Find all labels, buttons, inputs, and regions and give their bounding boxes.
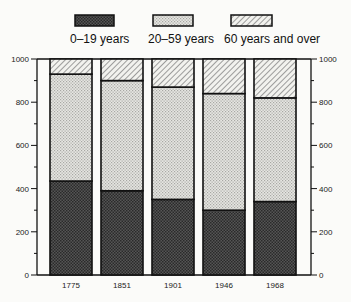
right-tick-label: 200 [319,228,333,237]
left-tick-label: 200 [16,228,30,237]
bar-segment-1 [152,87,194,199]
legend-label-20-59: 20–59 years [148,32,214,46]
bar-1775: 1775 [50,59,92,290]
bar-segment-2 [50,59,92,74]
bar-segment-0 [203,210,245,275]
bar-segment-0 [254,202,296,275]
x-tick-label: 1968 [266,281,284,290]
bar-1968: 1968 [254,59,296,290]
left-tick-label: 800 [16,98,30,107]
bar-segment-0 [101,191,143,275]
bar-1851: 1851 [101,59,143,290]
bar-segment-0 [152,199,194,275]
right-tick-label: 600 [319,141,333,150]
bar-segment-2 [152,59,194,87]
bar-segment-0 [50,181,92,275]
bar-segment-1 [254,98,296,202]
right-tick-label: 0 [319,271,324,280]
left-tick-label: 400 [16,185,30,194]
legend-item-60-over: 60 years and over [224,15,320,46]
legend-label-0-19: 0–19 years [70,32,129,46]
right-tick-label: 400 [319,185,333,194]
left-tick-label: 0 [25,271,30,280]
right-tick-label: 1000 [319,55,337,64]
x-tick-label: 1851 [113,281,131,290]
bar-segment-2 [203,59,245,94]
x-tick-label: 1901 [164,281,182,290]
bar-segment-2 [254,59,296,98]
bar-1901: 1901 [152,59,194,290]
bar-1946: 1946 [203,59,245,290]
stacked-bar-chart: 0–19 years 20–59 years 60 years and over… [0,0,351,302]
bar-segment-1 [101,81,143,191]
legend-swatch-light [153,15,193,26]
x-tick-label: 1775 [62,281,80,290]
legend-swatch-dark [75,15,114,26]
legend: 0–19 years 20–59 years 60 years and over [70,15,320,46]
legend-item-0-19: 0–19 years [70,15,129,46]
legend-item-20-59: 20–59 years [148,15,214,46]
bar-segment-1 [203,94,245,211]
left-tick-label: 1000 [11,55,29,64]
bars: 17751851190119461968 [50,59,296,290]
bar-segment-2 [101,59,143,81]
legend-label-60-over: 60 years and over [224,32,320,46]
x-tick-label: 1946 [215,281,233,290]
right-tick-label: 800 [319,98,333,107]
left-tick-label: 600 [16,141,30,150]
bar-segment-1 [50,74,92,181]
legend-swatch-hatch [231,15,272,26]
